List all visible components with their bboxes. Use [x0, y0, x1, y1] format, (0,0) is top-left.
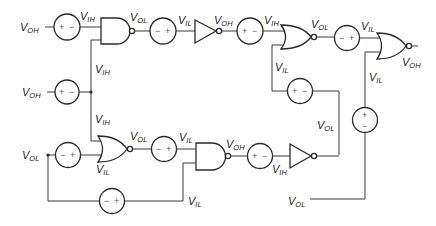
svg-text:−: −: [104, 196, 109, 206]
label-inv2-in: VIH: [272, 163, 287, 177]
voltage-source-3: + −: [237, 18, 263, 44]
label-nor2-in1: VIL: [361, 20, 375, 34]
svg-text:+: +: [59, 22, 64, 32]
svg-text:−: −: [302, 86, 307, 96]
label-nand2-out: VOH: [226, 138, 245, 152]
label-nand1-out: VOL: [130, 11, 147, 25]
svg-text:−: −: [69, 22, 74, 32]
svg-text:+: +: [362, 110, 367, 120]
label-nand2-in1: VIL: [179, 131, 193, 145]
voltage-source-2: − +: [150, 18, 176, 44]
svg-text:−: −: [155, 26, 160, 36]
svg-text:+: +: [165, 26, 170, 36]
label-nor3-out: VOL: [130, 130, 147, 144]
voltage-source-8: − +: [152, 137, 177, 162]
label-nand1-in2: VIH: [95, 63, 110, 77]
voltage-source-4: − +: [335, 26, 360, 51]
inverter-2: [290, 144, 317, 168]
svg-text:+: +: [59, 87, 64, 97]
svg-text:+: +: [114, 196, 119, 206]
svg-text:+: +: [242, 26, 247, 36]
voltage-source-11: + −: [353, 108, 378, 133]
svg-text:−: −: [262, 151, 267, 161]
label-nor1-in2: VIL: [275, 61, 289, 75]
label-inv1-in: VIL: [178, 14, 192, 28]
svg-text:−: −: [362, 121, 367, 131]
svg-text:+: +: [70, 150, 75, 160]
svg-text:+: +: [292, 86, 297, 96]
label-nor1-out: VOL: [311, 18, 328, 32]
label-nand2-in2: VIL: [188, 195, 202, 209]
voltage-source-7: − +: [56, 143, 81, 168]
nor-gate-3: [98, 136, 133, 162]
svg-text:−: −: [252, 26, 257, 36]
voltage-source-9: + −: [248, 144, 273, 169]
svg-text:−: −: [60, 150, 65, 160]
voltage-source-1: + −: [54, 14, 80, 40]
svg-text:−: −: [339, 33, 344, 43]
label-nand1-in1: VIH: [80, 10, 95, 24]
label-nor1-in1: VIH: [264, 14, 279, 28]
label-in-top: VOH: [20, 21, 39, 35]
voltage-source-5: + −: [288, 79, 313, 104]
svg-text:−: −: [69, 87, 74, 97]
svg-text:+: +: [349, 33, 354, 43]
svg-text:−: −: [156, 144, 161, 154]
label-in-mid: VOH: [22, 86, 41, 100]
voltage-source-6: + −: [55, 80, 79, 104]
circuit-diagram: + − VOH VIH VOL − + VIL VOH + − VIH VOL: [0, 0, 436, 226]
label-in-low: VOL: [22, 149, 39, 163]
svg-text:+: +: [166, 144, 171, 154]
label-nor2-in2: VIL: [369, 71, 383, 85]
svg-text:+: +: [252, 151, 257, 161]
label-in-bottom-right: VOL: [288, 195, 305, 209]
label-nor3-in1: VIH: [95, 113, 110, 127]
voltage-source-10: − +: [100, 189, 125, 214]
label-nor3-in2: VIL: [96, 163, 110, 177]
label-inv2-out: VOL: [317, 119, 334, 133]
label-nor2-out: VOH: [402, 56, 421, 70]
label-inv1-out: VOH: [214, 14, 233, 28]
